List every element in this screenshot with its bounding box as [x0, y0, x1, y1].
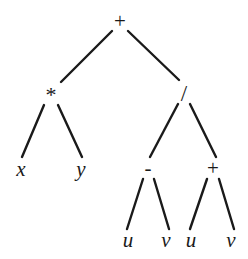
node-variable-v-left: v — [161, 230, 170, 251]
tree-edge-add2-to-v2 — [219, 179, 234, 229]
node-multiply: * — [46, 84, 57, 106]
node-variable-x: x — [16, 159, 25, 180]
expression-tree-figure: + * / x y - + u v u v — [0, 0, 248, 259]
node-divide: / — [181, 82, 187, 105]
tree-edge-root-to-mul — [61, 31, 112, 82]
tree-edge-root-to-div — [128, 31, 179, 80]
node-variable-y: y — [76, 159, 85, 180]
tree-edge-div-to-sub — [150, 104, 178, 157]
tree-edge-mul-to-y — [58, 105, 82, 157]
node-variable-v-right: v — [226, 230, 235, 251]
node-plus-right: + — [207, 158, 219, 179]
tree-edge-sub-to-v1 — [154, 179, 169, 229]
node-subtract: - — [145, 158, 152, 179]
node-variable-u-right: u — [186, 230, 197, 251]
tree-edges-layer — [0, 0, 248, 259]
tree-edge-add2-to-u2 — [190, 179, 207, 229]
tree-edge-div-to-add2 — [190, 104, 216, 157]
tree-edge-sub-to-u1 — [127, 179, 143, 229]
node-variable-u-left: u — [123, 230, 134, 251]
node-root-plus: + — [114, 11, 126, 32]
tree-edge-mul-to-x — [22, 105, 44, 157]
